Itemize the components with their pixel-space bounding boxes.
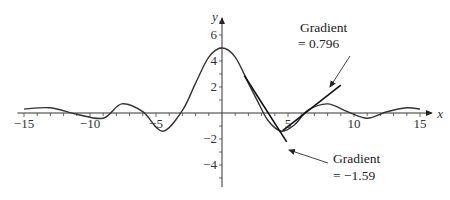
y-tick-label: 2: [211, 79, 218, 94]
function-graph: xy−15−10−551015642−2−4 Gradient= 0.796Gr…: [0, 0, 450, 200]
tangent-lines: [244, 76, 340, 142]
tick-labels: xy−15−10−551015642−2−4: [14, 9, 443, 172]
y-axis-label: y: [210, 9, 218, 24]
tangent-negative: [244, 76, 286, 142]
x-axis-label: x: [436, 106, 443, 121]
y-tick-label: −4: [203, 157, 217, 172]
x-tick-label: −15: [14, 116, 34, 131]
arrow-icon: [289, 150, 328, 163]
gradient-negative-value: = −1.59: [333, 168, 375, 183]
gradient-positive-label: Gradient: [300, 20, 347, 35]
y-tick-label: 6: [211, 27, 218, 42]
y-tick-label: 4: [211, 53, 218, 68]
gradient-negative-label: Gradient: [333, 151, 380, 166]
gradient-annotations: Gradient= 0.796Gradient= −1.59: [289, 20, 380, 183]
x-tick-label: −5: [149, 116, 163, 131]
y-tick-label: −2: [203, 131, 217, 146]
gradient-positive-value: = 0.796: [298, 36, 340, 51]
arrow-icon: [330, 56, 350, 87]
x-tick-label: 15: [414, 116, 427, 131]
tangent-positive: [283, 85, 341, 131]
x-tick-label: 10: [348, 116, 361, 131]
